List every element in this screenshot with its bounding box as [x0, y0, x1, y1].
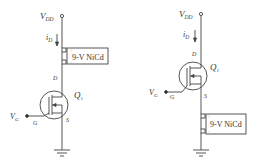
source-label-left: S — [66, 117, 69, 123]
current-arrow-icon — [56, 42, 59, 46]
current-arrow-icon — [194, 38, 197, 42]
gate-terminal-right — [165, 91, 168, 94]
circuit-right — [165, 12, 246, 156]
battery-terminal-top-left — [62, 48, 66, 52]
vdd-terminal-left — [60, 14, 63, 17]
circuit-left — [26, 14, 108, 156]
circuit-diagram: VDD iD 9-V NiCd + − D Q1 VG G S — [0, 0, 256, 165]
battery-terminal-top-right — [201, 114, 205, 118]
id-label-left: iD — [46, 33, 52, 43]
vg-label-left: VG — [10, 112, 19, 122]
q-label-right: Q1 — [210, 62, 219, 73]
plus-sign-right: + — [208, 114, 211, 119]
vdd-terminal-right — [199, 12, 202, 15]
gate-label-left: G — [33, 120, 38, 126]
labels-left: VDD iD 9-V NiCd + − D Q1 VG G S — [10, 11, 104, 126]
battery-label-right: 9-V NiCd — [210, 120, 242, 129]
q-label-left: Q1 — [74, 90, 83, 101]
ground-icon — [193, 150, 209, 156]
id-label-right: iD — [183, 30, 189, 40]
battery-terminal-bot-right — [201, 129, 205, 133]
vg-label-right: VG — [149, 88, 158, 98]
labels-right: VDD iD D Q1 VG G S 9-V NiCd + − — [149, 9, 242, 134]
battery-label-left: 9-V NiCd — [72, 53, 104, 62]
vdd-label-left: VDD — [40, 11, 53, 22]
drain-label-right: D — [191, 51, 197, 57]
vdd-label-right: VDD — [179, 9, 192, 20]
gate-label-right: G — [170, 94, 175, 100]
ground-icon — [54, 150, 70, 156]
drain-label-left: D — [52, 75, 58, 81]
battery-terminal-bot-left — [62, 60, 66, 64]
minus-sign-right: − — [208, 129, 211, 134]
source-label-right: S — [204, 93, 207, 99]
gate-terminal-left — [26, 115, 29, 118]
